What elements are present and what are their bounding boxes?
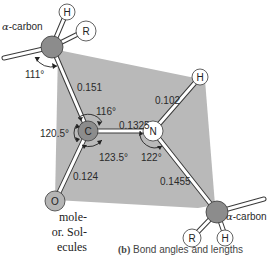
svg-text:H: H bbox=[221, 233, 228, 244]
body-text-line-2: or. Sol- bbox=[40, 225, 87, 240]
atom-r-top: R bbox=[76, 21, 96, 41]
svg-text:R: R bbox=[82, 26, 89, 37]
body-text-line-1: mole- bbox=[40, 210, 87, 225]
bond-length-n-calpha: 0.1455 bbox=[160, 176, 191, 187]
bond-length-calpha-c: 0.151 bbox=[77, 82, 102, 93]
caption-prefix: (b) bbox=[118, 244, 130, 255]
peptide-bond-diagram: H R C O N H R H bbox=[0, 0, 270, 258]
svg-text:C: C bbox=[84, 126, 91, 137]
atom-h-top: H bbox=[59, 4, 75, 20]
atom-alpha-carbon-bottom bbox=[206, 201, 228, 223]
svg-text:R: R bbox=[188, 233, 195, 244]
atom-carbonyl-carbon: C bbox=[78, 121, 98, 141]
bond-length-n-h: 0.102 bbox=[155, 95, 180, 106]
atom-alpha-carbon-top bbox=[41, 36, 63, 58]
bond-angle-c-bottom: 123.5° bbox=[99, 152, 128, 163]
svg-text:O: O bbox=[51, 196, 59, 207]
alpha-carbon-bottom-label: α-carbon bbox=[226, 211, 267, 222]
svg-text:N: N bbox=[149, 126, 156, 137]
atom-h-amide: H bbox=[192, 69, 208, 85]
alpha-carbon-top-label: α-carbon bbox=[2, 21, 43, 32]
bond-angle-n: 122° bbox=[141, 152, 162, 163]
svg-text:H: H bbox=[63, 7, 70, 18]
bond-length-c-n: 0.1325 bbox=[119, 120, 150, 131]
atom-oxygen: O bbox=[45, 191, 65, 211]
body-text-line-3: ecules bbox=[40, 240, 87, 255]
bond-angle-c-left: 120.5° bbox=[40, 128, 69, 139]
bond-angle-c-top: 116° bbox=[96, 106, 116, 117]
figure-caption: (b) Bond angles and lengths bbox=[118, 244, 243, 255]
bond-length-c-o: 0.124 bbox=[73, 171, 98, 182]
caption-text: Bond angles and lengths bbox=[130, 244, 243, 255]
svg-text:H: H bbox=[196, 72, 203, 83]
bond-angle-calpha: 111° bbox=[25, 69, 44, 80]
